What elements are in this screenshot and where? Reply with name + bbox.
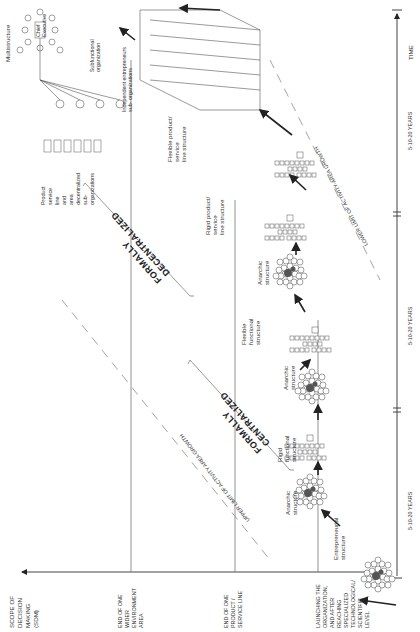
svg-text:service: service: [211, 215, 218, 235]
svg-text:AND AFTER: AND AFTER: [329, 598, 335, 628]
svg-text:SERVICE LINE: SERVICE LINE: [237, 591, 243, 628]
label-flexible-functional: Flexible functional structure: [240, 319, 261, 346]
chief-executive-label: Chief Executive: [35, 14, 47, 37]
svg-text:ORGANIZATION,: ORGANIZATION,: [322, 585, 328, 628]
label-rigid-product: Rigid product/ service line structure: [204, 197, 225, 235]
svg-text:service: service: [47, 188, 53, 205]
svg-text:structure: structure: [339, 535, 346, 560]
svg-text:WIDER: WIDER: [124, 610, 130, 628]
time-axis-label: TIME: [407, 45, 414, 60]
product-line-orgs-label: Product service line and area decentrali…: [40, 173, 95, 205]
level-label-environment: END OF ONE WIDER ENVIRONMENT AREA: [117, 587, 144, 628]
label-flexible-product: Flexible product/ service line structure: [166, 116, 187, 162]
phase-label-decentralized: FORMALLY DECENTRALIZED: [101, 210, 172, 285]
svg-text:SPECIALIZED: SPECIALIZED: [343, 593, 349, 628]
svg-text:(SDM): (SDM): [32, 610, 39, 628]
upper-limit-label: UPPER LIMIT OF ACTIVITY AREA GROWTH: [178, 433, 250, 523]
svg-text:REACHING: REACHING: [336, 600, 342, 628]
svg-text:Flexible: Flexible: [240, 323, 247, 345]
svg-text:Entrepreneurial: Entrepreneurial: [332, 518, 339, 560]
svg-text:LAUNCHING THE: LAUNCHING THE: [315, 584, 321, 628]
time-segment-2: 5-10-20 YEARS: [407, 306, 413, 345]
svg-text:END OF ONE: END OF ONE: [117, 594, 123, 628]
time-segment-3: 5-10-20 YEARS: [407, 111, 413, 150]
svg-text:MAKING: MAKING: [24, 603, 31, 628]
svg-text:END OF ONE: END OF ONE: [223, 594, 229, 628]
svg-text:functional: functional: [247, 319, 254, 346]
organizational-growth-diagram: SCOPE OF DECISION MAKING (SDM) END OF ON…: [0, 0, 420, 632]
svg-text:structure: structure: [263, 260, 270, 285]
multistructure-title: Multistructure: [4, 24, 11, 62]
svg-text:Anarchic: Anarchic: [282, 366, 289, 390]
svg-text:Anarchic: Anarchic: [256, 261, 263, 285]
svg-text:area: area: [68, 194, 74, 205]
svg-text:ENVIRONMENT: ENVIRONMENT: [131, 587, 137, 628]
svg-text:organizations: organizations: [89, 173, 95, 205]
svg-text:structure: structure: [291, 490, 298, 515]
svg-text:structure: structure: [290, 437, 297, 462]
label-anarchic-3: Anarchic structure: [256, 260, 270, 285]
svg-text:Product: Product: [40, 186, 46, 205]
svg-text:PRODUCT /: PRODUCT /: [230, 598, 236, 628]
label-entrepreneurial: Entrepreneurial structure: [332, 518, 346, 560]
svg-text:structure: structure: [254, 320, 261, 345]
svg-text:line structure: line structure: [218, 199, 225, 235]
svg-text:SCIENTIFIC: SCIENTIFIC: [357, 598, 363, 628]
svg-text:line structure: line structure: [180, 126, 187, 162]
entrepreneurs-label: Independent entrepreneurs sub- organizat…: [121, 47, 133, 112]
subfunctional-label: Subfunctional organization: [89, 39, 101, 72]
level-label-product-line: END OF ONE PRODUCT / SERVICE LINE: [223, 591, 243, 628]
phase-label-centralized: FORMALLY CENTRALIZED: [210, 390, 272, 455]
svg-text:LEVEL: LEVEL: [364, 611, 370, 628]
svg-text:organization: organization: [95, 43, 101, 72]
svg-text:Flexible product/: Flexible product/: [166, 116, 173, 162]
svg-text:structure: structure: [289, 365, 296, 390]
label-anarchic-1: Anarchic structure: [284, 490, 298, 515]
svg-text:DECISION: DECISION: [16, 598, 23, 628]
label-anarchic-2: Anarchic structure: [282, 365, 296, 390]
multistructure-block: [140, 10, 260, 110]
lower-limit-label: LOWER LIMIT OF ACTIVITY-AREA GROWTH: [313, 145, 369, 247]
svg-text:Rigid: Rigid: [276, 447, 283, 462]
svg-text:Executive: Executive: [41, 14, 47, 37]
svg-text:decentralized: decentralized: [75, 173, 81, 205]
level-label-launch: LAUNCHING THE ORGANIZATION, AND AFTER RE…: [315, 580, 370, 628]
label-rigid-functional: Rigid functional structure: [276, 436, 297, 463]
svg-text:line: line: [54, 197, 60, 205]
svg-text:functional: functional: [283, 436, 290, 463]
svg-text:Rigid product/: Rigid product/: [204, 197, 211, 235]
time-segment-1: 5-10-20 YEARS: [407, 491, 413, 530]
svg-text:Anarchic: Anarchic: [284, 491, 291, 515]
svg-text:and: and: [61, 196, 67, 205]
svg-text:service: service: [173, 142, 180, 162]
svg-text:TECHNOLOGICAL/: TECHNOLOGICAL/: [350, 580, 356, 628]
vertical-axis-title: SCOPE OF DECISION MAKING (SDM): [8, 596, 39, 628]
svg-text:sub- organizations: sub- organizations: [127, 68, 133, 112]
svg-text:sub-: sub-: [82, 194, 88, 205]
svg-text:AREA: AREA: [138, 613, 144, 628]
svg-text:SCOPE OF: SCOPE OF: [8, 596, 15, 628]
